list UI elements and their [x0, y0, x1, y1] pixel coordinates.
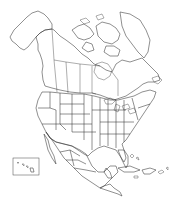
baja-california	[44, 134, 56, 164]
newfoundland-outline	[152, 76, 162, 84]
arctic-islands-small	[80, 14, 104, 24]
alaska-outline	[10, 11, 52, 50]
greenland-edge	[120, 12, 150, 58]
great-lakes	[104, 98, 136, 114]
florida-outline	[118, 150, 128, 168]
caribbean-islands	[118, 154, 168, 178]
mexico-outline	[46, 132, 112, 188]
hawaii-islands	[17, 162, 34, 172]
north-america-map	[0, 0, 181, 197]
usa-outline	[36, 90, 156, 162]
hawaii-inset-box	[13, 158, 39, 175]
central-america	[100, 184, 122, 196]
